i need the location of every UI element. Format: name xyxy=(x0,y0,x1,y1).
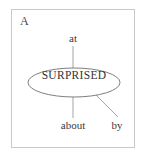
satellite-label-by: by xyxy=(112,120,123,131)
figure-screenshot: A SURPRISED at about by xyxy=(0,0,145,160)
satellite-label-at: at xyxy=(69,33,77,44)
connector-by xyxy=(96,95,118,117)
center-node-label: SURPRISED xyxy=(42,70,107,82)
satellite-label-about: about xyxy=(61,120,85,131)
